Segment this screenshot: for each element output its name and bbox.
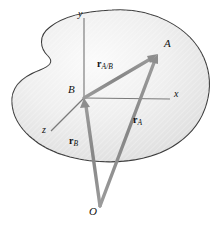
diagram-canvas: [0, 0, 218, 225]
axis-label-x: x: [174, 89, 178, 99]
vector-diagram-figure: A B O y x z rA/B rA rB: [0, 0, 218, 225]
rigid-body-shape: [12, 10, 210, 162]
vector-label-r-b: rB: [69, 136, 78, 148]
vector-label-r-a-over-b: rA/B: [97, 59, 113, 71]
point-label-a: A: [164, 38, 171, 49]
vector-label-r-a: rA: [133, 115, 142, 127]
vector-subscript: B: [73, 139, 78, 148]
vector-subscript: A: [137, 118, 142, 127]
point-label-o: O: [89, 206, 97, 217]
point-label-b: B: [68, 84, 75, 95]
axis-label-z: z: [42, 125, 46, 135]
vector-subscript: A/B: [101, 62, 113, 71]
axis-label-y: y: [78, 9, 82, 19]
